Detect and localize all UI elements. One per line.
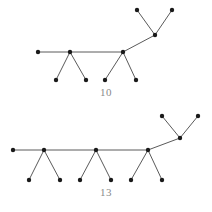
graph-node bbox=[58, 178, 62, 182]
figure-root: 10 13 bbox=[0, 0, 212, 212]
graph-node bbox=[78, 178, 82, 182]
graph-node bbox=[160, 178, 164, 182]
graph-node bbox=[121, 50, 125, 54]
graph-node bbox=[109, 178, 113, 182]
graph-node bbox=[153, 33, 157, 37]
graph-node bbox=[54, 78, 58, 82]
graph-node bbox=[27, 178, 31, 182]
graph-edge bbox=[105, 52, 123, 80]
graph-edge bbox=[29, 150, 44, 180]
graph-edge bbox=[80, 150, 96, 180]
graph-edge bbox=[123, 35, 155, 52]
graph-node bbox=[84, 78, 88, 82]
graph-caption-bottom: 13 bbox=[0, 186, 212, 198]
graph-canvas bbox=[0, 0, 212, 212]
graph-node bbox=[42, 148, 46, 152]
graph-node bbox=[146, 148, 150, 152]
graph-edge bbox=[148, 150, 162, 180]
graph-node bbox=[94, 148, 98, 152]
graph-node bbox=[36, 50, 40, 54]
graph-node bbox=[129, 178, 133, 182]
graph-node bbox=[170, 8, 174, 12]
graph-node bbox=[11, 148, 15, 152]
graph-edge bbox=[162, 116, 180, 138]
graph-edge bbox=[44, 150, 60, 180]
graph-edge bbox=[180, 116, 198, 138]
graph-node bbox=[134, 78, 138, 82]
graph-caption-top: 10 bbox=[0, 86, 212, 98]
graph-node bbox=[178, 136, 182, 140]
graph-node bbox=[196, 114, 200, 118]
graph-node bbox=[160, 114, 164, 118]
graph-edge bbox=[137, 10, 155, 35]
graph-edge bbox=[155, 10, 172, 35]
graph-edge bbox=[56, 52, 70, 80]
graph-edge bbox=[148, 138, 180, 150]
graph-edge bbox=[123, 52, 136, 80]
graph-edge bbox=[70, 52, 86, 80]
graph-node bbox=[135, 8, 139, 12]
graph-node bbox=[103, 78, 107, 82]
graph-node bbox=[68, 50, 72, 54]
graph-edge bbox=[96, 150, 111, 180]
graph-edge bbox=[131, 150, 148, 180]
